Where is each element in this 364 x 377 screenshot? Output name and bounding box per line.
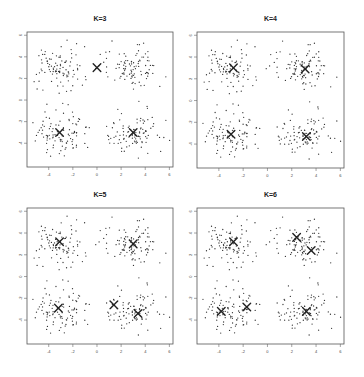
y-tick-label: 0	[18, 98, 23, 101]
y-tick-label: 6	[18, 209, 23, 212]
plot-frame	[27, 32, 173, 167]
y-tick-label: 6	[188, 209, 193, 212]
x-tick-label: -2	[241, 349, 245, 354]
y-tick-label: 0	[188, 99, 193, 102]
x-tick-label: -2	[71, 349, 75, 354]
panel-k3: K=3 -4-202466420-2-4	[7, 12, 183, 187]
y-tick-label: 0	[188, 275, 193, 278]
y-tick-label: -2	[188, 120, 193, 124]
panel-k4: K=4 -4-202466420-2-4	[177, 12, 354, 188]
y-tick-label: 2	[18, 77, 23, 80]
scatter-plot: -4-202466420-2-4	[7, 188, 183, 364]
y-tick-label: -2	[188, 296, 193, 300]
centroid-x-icon	[56, 129, 64, 137]
y-tick-label: -4	[188, 318, 193, 322]
x-tick-label: -4	[217, 349, 221, 354]
y-tick-label: 4	[188, 55, 193, 58]
y-tick-label: -4	[188, 142, 193, 146]
x-tick-label: 4	[144, 172, 147, 177]
y-tick-label: -4	[18, 318, 23, 322]
x-tick-label: -4	[47, 349, 51, 354]
x-tick-label: -4	[47, 172, 51, 177]
centroid-x-icon	[93, 64, 101, 72]
centroid-x-icon	[129, 240, 137, 248]
panel-k5: K=5 -4-202466420-2-4	[7, 188, 183, 364]
x-tick-label: 6	[339, 349, 342, 354]
centroid-x-icon	[230, 64, 238, 72]
y-tick-label: 0	[18, 275, 23, 278]
y-tick-label: 2	[18, 253, 23, 256]
x-tick-label: -2	[241, 173, 245, 178]
centroid-x-icon	[217, 308, 225, 316]
scatter-plot: -4-202466420-2-4	[177, 12, 354, 188]
x-tick-label: 0	[96, 349, 99, 354]
data-points	[202, 40, 341, 160]
x-tick-label: 6	[168, 349, 171, 354]
y-tick-label: 6	[188, 33, 193, 36]
x-tick-label: 4	[315, 349, 318, 354]
x-tick-label: 0	[266, 349, 269, 354]
x-tick-label: 4	[144, 349, 147, 354]
scatter-plot: -4-202466420-2-4	[7, 12, 183, 187]
y-tick-label: -2	[18, 119, 23, 123]
x-tick-label: 0	[96, 172, 99, 177]
x-tick-label: 6	[168, 172, 171, 177]
plot-frame	[197, 32, 344, 168]
x-tick-label: -2	[71, 172, 75, 177]
x-tick-label: 0	[266, 173, 269, 178]
centroid-x-icon	[55, 304, 63, 312]
y-tick-label: 2	[188, 77, 193, 80]
x-tick-label: 2	[291, 349, 294, 354]
scatter-plot: -4-202466420-2-4	[177, 188, 354, 364]
data-points	[202, 216, 341, 336]
x-tick-label: 2	[120, 172, 123, 177]
panel-k6: K=6 -4-202466420-2-4	[177, 188, 354, 364]
centroid-x-icon	[293, 234, 301, 242]
y-tick-label: -2	[18, 296, 23, 300]
centroid-x-icon	[227, 130, 235, 138]
x-tick-label: 4	[315, 173, 318, 178]
x-tick-label: -4	[217, 173, 221, 178]
x-tick-label: 6	[339, 173, 342, 178]
x-tick-label: 2	[291, 173, 294, 178]
y-tick-label: 6	[18, 33, 23, 36]
data-points	[32, 216, 170, 336]
data-points	[32, 39, 170, 158]
y-tick-label: 4	[18, 231, 23, 234]
y-tick-label: 4	[188, 231, 193, 234]
centroid-x-icon	[110, 301, 118, 309]
plot-frame	[197, 208, 344, 344]
y-tick-label: -4	[18, 141, 23, 145]
plot-frame	[27, 208, 173, 344]
y-tick-label: 4	[18, 55, 23, 58]
centroid-x-icon	[303, 308, 311, 316]
x-tick-label: 2	[120, 349, 123, 354]
y-tick-label: 2	[188, 253, 193, 256]
